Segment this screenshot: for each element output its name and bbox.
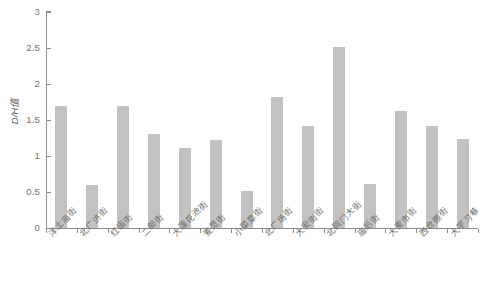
bar — [117, 106, 129, 228]
y-tick-label: 2.5 — [0, 43, 40, 52]
y-tick-label: 0 — [0, 223, 40, 232]
y-tick-label: 3 — [0, 7, 40, 16]
y-tick-label: 0.5 — [0, 187, 40, 196]
y-tick-label: 1 — [0, 151, 40, 160]
bar — [271, 97, 283, 228]
bar — [55, 106, 67, 228]
bars-layer — [46, 12, 478, 228]
x-axis-labels: 洋土庙街北广济街红庙街二郎街大莲花池街麦苋街小菜菜街北广场街大安街街北院门大街庙… — [0, 232, 488, 288]
y-tick-label: 1.5 — [0, 115, 40, 124]
y-axis-title: D/H值 — [7, 81, 21, 141]
bar-chart: D/H值 00.511.522.53 洋土庙街北广济街红庙街二郎街大莲花池街麦苋… — [0, 0, 488, 288]
bar — [395, 111, 407, 228]
y-tick-label: 2 — [0, 79, 40, 88]
bar — [333, 47, 345, 228]
